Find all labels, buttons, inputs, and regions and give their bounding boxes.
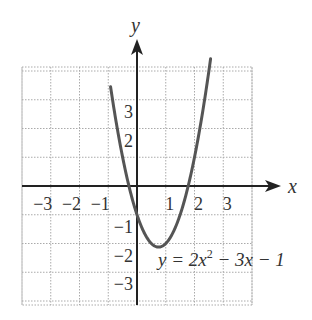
x-tick-label: −3 [33,194,52,214]
x-axis-label: x [287,175,297,197]
y-tick-label: 3 [124,102,133,122]
x-tick-label: 2 [194,194,203,214]
y-tick-label: −3 [114,274,133,294]
x-tick-label: −2 [62,194,81,214]
equation-suffix: − 3x − 1 [213,249,285,270]
equation-label: y = 2x2 − 3x − 1 [156,247,285,270]
y-tick-label: −2 [114,246,133,266]
x-tick-label: 3 [223,194,232,214]
x-tick-label: −1 [91,194,110,214]
y-tick-label: −1 [114,217,133,237]
equation-prefix: y = 2x [156,249,207,270]
parabola-chart: −3−2−112332−1−2−3 x y y = 2x2 − 3x − 1 [0,0,312,320]
y-axis-label: y [129,14,140,37]
x-tick-label: 1 [165,194,174,214]
y-tick-label: 2 [124,131,133,151]
